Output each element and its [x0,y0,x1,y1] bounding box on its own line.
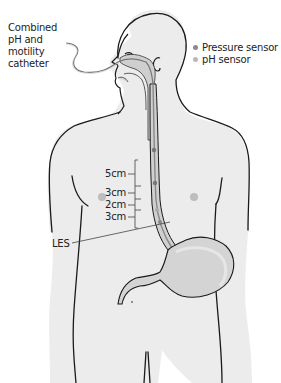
pressure-sensor-dot [153,181,157,185]
legend-item-ph: pH sensor [193,54,278,65]
right-nipple [190,193,198,201]
pressure-sensor-dot-icon [193,45,198,50]
catheter-label-line: motility [8,46,57,58]
ph-sensor-dot [155,208,159,212]
scale-label-2cm: 2cm [105,199,126,211]
legend: Pressure sensor pH sensor [193,42,278,66]
scale-label-5cm: 5cm [105,168,126,180]
legend-item-pressure: Pressure sensor [193,42,278,53]
legend-label: Pressure sensor [202,42,278,53]
catheter-label-line: catheter [8,58,57,70]
scale-label-3cm: 3cm [105,187,126,199]
les-label: LES [52,238,70,250]
legend-label: pH sensor [202,54,250,65]
pressure-sensor-dot [152,148,156,152]
catheter-label-line: pH and [8,34,57,46]
catheter-label: Combined pH and motility catheter [8,22,57,70]
pressure-sensor-dot [158,220,162,224]
catheter-label-line: Combined [8,22,57,34]
scale-label-3cm-lower: 3cm [105,211,126,223]
ph-sensor-dot-icon [193,57,198,62]
navel [131,301,133,303]
